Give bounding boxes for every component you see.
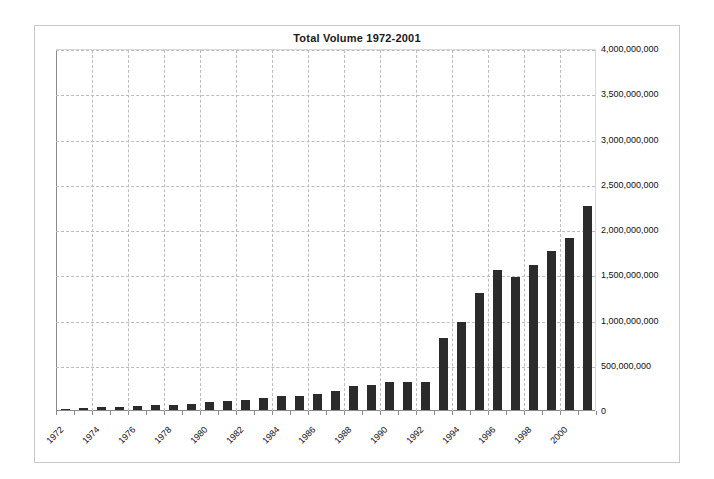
- x-tick-mark: [596, 411, 597, 415]
- gridline-horizontal: [56, 186, 595, 187]
- x-tick-label: 1986: [289, 424, 317, 452]
- gridline-vertical: [308, 50, 309, 411]
- x-tick-label: 1988: [325, 424, 353, 452]
- x-tick-label: 1994: [433, 424, 461, 452]
- x-tick-mark: [470, 411, 471, 415]
- x-tick-label: 1984: [253, 424, 281, 452]
- gridline-vertical: [560, 50, 561, 411]
- gridline-vertical: [92, 50, 93, 411]
- x-tick-mark: [434, 411, 435, 415]
- bar: [349, 386, 358, 410]
- x-tick-mark: [308, 411, 309, 415]
- x-tick-mark: [344, 411, 345, 415]
- plot-area: [56, 49, 596, 411]
- x-tick-mark: [380, 411, 381, 415]
- x-tick-label: 1978: [145, 424, 173, 452]
- bar: [493, 270, 502, 410]
- x-tick-label: 1972: [37, 424, 65, 452]
- x-tick-mark: [560, 411, 561, 415]
- bar: [61, 409, 70, 410]
- gridline-horizontal: [56, 50, 595, 51]
- bar: [295, 396, 304, 410]
- gridline-vertical: [128, 50, 129, 411]
- x-tick-label: 1996: [469, 424, 497, 452]
- x-tick-mark: [272, 411, 273, 415]
- x-tick-mark: [542, 411, 543, 415]
- gridline-vertical: [380, 50, 381, 411]
- gridline-horizontal: [56, 141, 595, 142]
- bar: [151, 405, 160, 410]
- x-tick-mark: [146, 411, 147, 415]
- gridline-horizontal: [56, 231, 595, 232]
- x-tick-mark: [290, 411, 291, 415]
- x-tick-mark: [506, 411, 507, 415]
- x-tick-mark: [524, 411, 525, 415]
- x-tick-mark: [254, 411, 255, 415]
- y-tick-label: 500,000,000: [601, 361, 651, 371]
- bar: [547, 251, 556, 410]
- bar: [403, 382, 412, 411]
- x-tick-label: 1992: [397, 424, 425, 452]
- x-tick-mark: [218, 411, 219, 415]
- bar: [331, 391, 340, 410]
- bar: [115, 407, 124, 410]
- bar: [205, 402, 214, 410]
- bar: [169, 405, 178, 410]
- y-tick-label: 4,000,000,000: [601, 44, 659, 54]
- bar: [439, 338, 448, 410]
- x-tick-mark: [398, 411, 399, 415]
- gridline-vertical: [452, 50, 453, 411]
- chart-title: Total Volume 1972-2001: [35, 32, 679, 44]
- x-tick-label: 1990: [361, 424, 389, 452]
- x-tick-label: 1998: [505, 424, 533, 452]
- y-tick-label: 3,000,000,000: [601, 135, 659, 145]
- x-tick-mark: [578, 411, 579, 415]
- x-tick-mark: [416, 411, 417, 415]
- gridline-vertical: [272, 50, 273, 411]
- x-tick-label: 1976: [109, 424, 137, 452]
- gridline-vertical: [488, 50, 489, 411]
- y-tick-label: 2,500,000,000: [601, 180, 659, 190]
- x-tick-mark: [182, 411, 183, 415]
- gridline-horizontal: [56, 95, 595, 96]
- bar: [313, 394, 322, 410]
- bar: [367, 385, 376, 410]
- bar: [133, 406, 142, 410]
- x-tick-mark: [488, 411, 489, 415]
- x-tick-mark: [56, 411, 57, 415]
- gridline-vertical: [236, 50, 237, 411]
- bar: [457, 322, 466, 410]
- bar: [97, 407, 106, 410]
- y-tick-label: 3,500,000,000: [601, 89, 659, 99]
- x-tick-mark: [128, 411, 129, 415]
- bar: [79, 408, 88, 410]
- y-tick-label: 2,000,000,000: [601, 225, 659, 235]
- x-tick-label: 1980: [181, 424, 209, 452]
- gridline-vertical: [200, 50, 201, 411]
- x-tick-mark: [362, 411, 363, 415]
- x-tick-mark: [236, 411, 237, 415]
- bar: [223, 401, 232, 410]
- bar: [565, 238, 574, 410]
- x-tick-mark: [200, 411, 201, 415]
- x-tick-mark: [326, 411, 327, 415]
- y-tick-label: 1,500,000,000: [601, 270, 659, 280]
- chart-frame: Total Volume 1972-2001 4,000,000,0003,50…: [34, 25, 680, 463]
- x-tick-mark: [92, 411, 93, 415]
- gridline-vertical: [524, 50, 525, 411]
- bar: [475, 293, 484, 410]
- x-tick-mark: [164, 411, 165, 415]
- bar: [583, 206, 592, 410]
- bar: [187, 404, 196, 410]
- x-tick-mark: [452, 411, 453, 415]
- bar: [241, 400, 250, 410]
- y-tick-label: 1,000,000,000: [601, 316, 659, 326]
- bar: [421, 382, 430, 410]
- y-tick-label: 0: [601, 406, 606, 416]
- x-tick-label: 1974: [73, 424, 101, 452]
- x-tick-mark: [110, 411, 111, 415]
- gridline-vertical: [416, 50, 417, 411]
- gridline-vertical: [344, 50, 345, 411]
- x-tick-mark: [74, 411, 75, 415]
- bar: [529, 265, 538, 410]
